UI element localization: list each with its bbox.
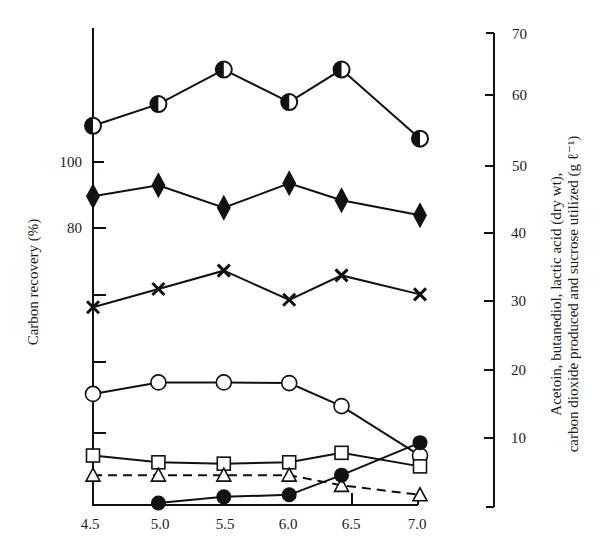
square-marker-icon	[335, 446, 348, 459]
square-marker-icon	[87, 449, 100, 462]
x-tick: 5.0	[151, 516, 170, 532]
open-circle-marker-icon	[282, 376, 297, 391]
series-line	[93, 70, 420, 139]
half-circle-marker-icon	[85, 118, 101, 134]
diamond-marker-icon	[151, 172, 165, 198]
right-tick-50: 50	[512, 158, 527, 174]
chart: 100 80 Carbon recovery (%) 4.5 5.0 5.5 6…	[0, 0, 600, 558]
right-axis-title-line2: carbon dioxide produced and sucrose util…	[565, 136, 582, 453]
right-axis-title-line1: Acetoin, butanediol, lactic acid (dry wt…	[548, 172, 565, 415]
open-circle-marker-icon	[151, 375, 166, 390]
series-line	[93, 453, 420, 467]
square-marker-icon	[414, 460, 427, 473]
diamond-marker-icon	[413, 202, 427, 228]
open-circle-marker-icon	[216, 375, 231, 390]
right-tick-20: 20	[511, 362, 526, 378]
left-axis: 100 80 Carbon recovery (%)	[25, 28, 106, 505]
series-diamond	[86, 170, 427, 228]
filled-circle-marker-icon	[216, 489, 231, 504]
half-circle-marker-icon	[281, 94, 297, 110]
right-tick-30: 30	[511, 293, 526, 309]
right-tick-10: 10	[511, 430, 526, 446]
left-axis-title: Carbon recovery (%)	[25, 219, 42, 346]
diamond-marker-icon	[86, 183, 100, 209]
right-tick-60: 60	[512, 87, 527, 103]
filled-circle-marker-icon	[282, 487, 297, 502]
x-tick: 5.5	[216, 516, 235, 532]
series-cross	[87, 265, 426, 314]
x-tick: 4.5	[81, 516, 100, 532]
filled-circle-marker-icon	[151, 495, 166, 510]
filled-circle-marker-icon	[413, 435, 428, 450]
diamond-marker-icon	[217, 195, 231, 221]
series-open-circle	[86, 375, 428, 463]
half-circle-marker-icon	[334, 62, 350, 78]
series-line	[93, 183, 420, 215]
x-tick: 7.0	[408, 516, 427, 532]
half-circle-marker-icon	[216, 62, 232, 78]
plot-series	[85, 62, 428, 511]
cross-marker-icon	[152, 283, 164, 295]
x-tick: 6.5	[342, 516, 361, 532]
diamond-marker-icon	[335, 187, 349, 213]
series-line	[93, 271, 420, 308]
half-circle-marker-icon	[150, 96, 166, 112]
series-line	[93, 382, 420, 455]
open-circle-marker-icon	[334, 399, 349, 414]
series-half-circle	[85, 62, 428, 147]
triangle-marker-icon	[282, 468, 296, 481]
right-tick-70: 70	[512, 26, 527, 42]
open-circle-marker-icon	[86, 386, 101, 401]
x-axis: 4.5 5.0 5.5 6.0 6.5 7.0	[81, 493, 427, 532]
right-tick-40: 40	[511, 225, 526, 241]
cross-marker-icon	[218, 265, 230, 277]
diamond-marker-icon	[282, 170, 296, 196]
x-tick: 6.0	[279, 516, 298, 532]
left-tick-100: 100	[60, 154, 83, 170]
series-square	[87, 446, 427, 473]
right-axis: 70 60 50 40 30 20 10 Acetoin, butanediol…	[484, 26, 582, 507]
left-tick-80: 80	[67, 220, 82, 236]
half-circle-marker-icon	[412, 131, 428, 147]
cross-marker-icon	[283, 294, 295, 306]
series-line	[93, 475, 420, 495]
filled-circle-marker-icon	[334, 468, 349, 483]
